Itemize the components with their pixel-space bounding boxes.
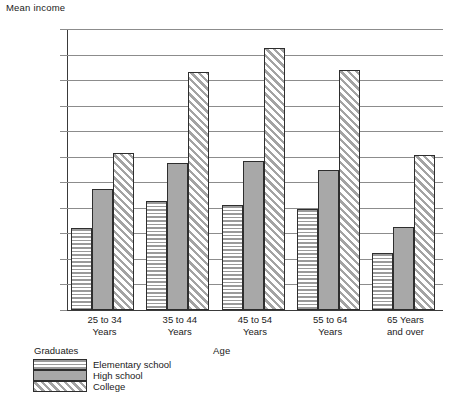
x-axis-tick-label: 35 to 44Years xyxy=(142,314,217,338)
legend-swatch xyxy=(33,381,87,392)
plot-area xyxy=(67,29,443,310)
legend-item: High school xyxy=(33,370,171,381)
bar-group xyxy=(71,29,134,310)
bar xyxy=(264,48,285,310)
x-tick-line-2: Years xyxy=(67,326,142,338)
x-tick-line-1: 55 to 64 xyxy=(293,314,368,326)
bar xyxy=(188,72,209,310)
bar xyxy=(339,70,360,310)
bar xyxy=(318,170,339,311)
legend-item: Elementary school xyxy=(33,359,171,370)
legend-swatch xyxy=(33,370,87,381)
bar-group xyxy=(372,29,435,310)
bar xyxy=(414,155,435,310)
x-axis-tick-label: 55 to 64Years xyxy=(293,314,368,338)
y-axis-title: Mean income xyxy=(6,2,65,13)
x-tick-line-2: Years xyxy=(293,326,368,338)
x-axis-title: Age xyxy=(213,345,231,356)
bar-group xyxy=(297,29,360,310)
bar xyxy=(167,163,188,310)
legend-label: Elementary school xyxy=(93,359,171,370)
bar xyxy=(146,201,167,310)
y-axis-tick-labels: $22,00020,00018,00016,00014,00012,00010,… xyxy=(0,29,63,310)
bar xyxy=(372,253,393,310)
bar xyxy=(113,153,134,310)
x-tick-line-1: 45 to 54 xyxy=(217,314,292,326)
y-axis-tick-marks xyxy=(60,29,67,310)
x-tick-line-1: 25 to 34 xyxy=(67,314,142,326)
legend-title: Graduates xyxy=(33,345,171,356)
bar xyxy=(243,161,264,310)
legend-items: Elementary schoolHigh schoolCollege xyxy=(33,359,171,392)
bar xyxy=(393,227,414,310)
bar xyxy=(92,189,113,310)
x-axis-tick-label: 65 Yearsand over xyxy=(368,314,443,338)
legend-label: High school xyxy=(93,370,143,381)
bar xyxy=(71,228,92,310)
x-tick-line-2: Years xyxy=(142,326,217,338)
legend-label: College xyxy=(93,381,125,392)
x-tick-line-2: and over xyxy=(368,326,443,338)
bar xyxy=(222,205,243,310)
bar-group xyxy=(222,29,285,310)
bar-group xyxy=(146,29,209,310)
x-axis-tick-label: 45 to 54Years xyxy=(217,314,292,338)
x-axis-baseline xyxy=(67,310,443,311)
bar xyxy=(297,209,318,310)
legend-swatch xyxy=(33,359,87,370)
x-axis-tick-label: 25 to 34Years xyxy=(67,314,142,338)
x-tick-line-2: Years xyxy=(217,326,292,338)
x-tick-line-1: 35 to 44 xyxy=(142,314,217,326)
legend: Graduates Elementary schoolHigh schoolCo… xyxy=(33,345,171,392)
bar-chart: Mean income $22,00020,00018,00016,00014,… xyxy=(0,0,457,398)
x-tick-line-1: 65 Years xyxy=(368,314,443,326)
legend-item: College xyxy=(33,381,171,392)
